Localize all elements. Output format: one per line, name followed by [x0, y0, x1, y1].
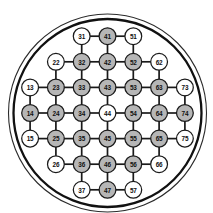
node-74[interactable]: 74 [177, 105, 194, 122]
node-52[interactable]: 52 [125, 53, 142, 70]
node-73[interactable]: 73 [177, 79, 194, 96]
node-circle-74[interactable] [177, 105, 194, 122]
node-34[interactable]: 34 [73, 105, 90, 122]
node-circle-53[interactable] [125, 79, 142, 96]
node-circle-57[interactable] [125, 181, 142, 198]
node-circle-35[interactable] [73, 130, 90, 147]
node-13[interactable]: 13 [22, 79, 39, 96]
node-22[interactable]: 22 [48, 53, 65, 70]
node-circle-54[interactable] [125, 105, 142, 122]
node-25[interactable]: 25 [48, 130, 65, 147]
node-circle-75[interactable] [177, 130, 194, 147]
node-circle-15[interactable] [22, 130, 39, 147]
node-75[interactable]: 75 [177, 130, 194, 147]
node-33[interactable]: 33 [73, 79, 90, 96]
node-circle-56[interactable] [125, 156, 142, 173]
node-circle-14[interactable] [22, 105, 39, 122]
node-circle-52[interactable] [125, 53, 142, 70]
node-circle-73[interactable] [177, 79, 194, 96]
node-circle-25[interactable] [48, 130, 65, 147]
node-layer: 3141512232425262132333435363731424344454… [22, 28, 194, 198]
node-circle-63[interactable] [151, 79, 168, 96]
node-circle-64[interactable] [151, 105, 168, 122]
wafer-canvas: 3141512232425262132333435363731424344454… [0, 0, 213, 213]
node-circle-55[interactable] [125, 130, 142, 147]
node-circle-47[interactable] [99, 181, 116, 198]
node-circle-62[interactable] [151, 53, 168, 70]
node-circle-26[interactable] [48, 156, 65, 173]
node-41[interactable]: 41 [99, 28, 116, 45]
node-circle-42[interactable] [99, 53, 116, 70]
node-circle-43[interactable] [99, 79, 116, 96]
node-circle-41[interactable] [99, 28, 116, 45]
node-circle-23[interactable] [48, 79, 65, 96]
node-circle-66[interactable] [151, 156, 168, 173]
node-64[interactable]: 64 [151, 105, 168, 122]
wafer-diagram: 3141512232425262132333435363731424344454… [0, 0, 213, 213]
node-62[interactable]: 62 [151, 53, 168, 70]
node-44[interactable]: 44 [99, 105, 116, 122]
node-35[interactable]: 35 [73, 130, 90, 147]
node-57[interactable]: 57 [125, 181, 142, 198]
node-51[interactable]: 51 [125, 28, 142, 45]
node-circle-34[interactable] [73, 105, 90, 122]
node-66[interactable]: 66 [151, 156, 168, 173]
node-circle-51[interactable] [125, 28, 142, 45]
node-circle-46[interactable] [99, 156, 116, 173]
node-37[interactable]: 37 [73, 181, 90, 198]
node-circle-44[interactable] [99, 105, 116, 122]
node-43[interactable]: 43 [99, 79, 116, 96]
node-circle-13[interactable] [22, 79, 39, 96]
node-15[interactable]: 15 [22, 130, 39, 147]
node-circle-33[interactable] [73, 79, 90, 96]
node-23[interactable]: 23 [48, 79, 65, 96]
node-circle-37[interactable] [73, 181, 90, 198]
node-56[interactable]: 56 [125, 156, 142, 173]
node-42[interactable]: 42 [99, 53, 116, 70]
node-47[interactable]: 47 [99, 181, 116, 198]
node-circle-65[interactable] [151, 130, 168, 147]
node-circle-45[interactable] [99, 130, 116, 147]
node-26[interactable]: 26 [48, 156, 65, 173]
node-circle-24[interactable] [48, 105, 65, 122]
node-31[interactable]: 31 [73, 28, 90, 45]
node-32[interactable]: 32 [73, 53, 90, 70]
node-53[interactable]: 53 [125, 79, 142, 96]
node-circle-22[interactable] [48, 53, 65, 70]
node-55[interactable]: 55 [125, 130, 142, 147]
node-24[interactable]: 24 [48, 105, 65, 122]
node-46[interactable]: 46 [99, 156, 116, 173]
node-45[interactable]: 45 [99, 130, 116, 147]
node-36[interactable]: 36 [73, 156, 90, 173]
node-63[interactable]: 63 [151, 79, 168, 96]
node-circle-31[interactable] [73, 28, 90, 45]
node-circle-36[interactable] [73, 156, 90, 173]
node-65[interactable]: 65 [151, 130, 168, 147]
node-54[interactable]: 54 [125, 105, 142, 122]
node-circle-32[interactable] [73, 53, 90, 70]
node-14[interactable]: 14 [22, 105, 39, 122]
